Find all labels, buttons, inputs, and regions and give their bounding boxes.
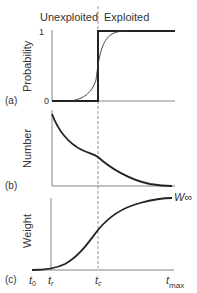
panel-a-label: (a) — [5, 95, 17, 106]
w-infinity-label: W∞ — [174, 191, 192, 203]
panel-c-label: (c) — [5, 274, 17, 285]
tick-tc: tc — [95, 274, 102, 287]
tick-tmax: tmax — [166, 274, 184, 290]
tick-tr: tr — [48, 274, 54, 287]
step-curve — [52, 31, 175, 101]
panel-b-ylabel: Number — [21, 129, 33, 168]
ytick-0: 0 — [44, 96, 49, 106]
panel-a-ylabel: Probability — [21, 40, 33, 92]
number-curve — [52, 114, 172, 186]
panel-b: (b) Number — [5, 110, 175, 191]
weight-curve — [32, 198, 172, 270]
tick-t0: t0 — [29, 274, 36, 287]
header-unexploited: Unexploited — [40, 11, 98, 23]
panel-c-ylabel: Weight — [21, 214, 33, 248]
panel-a: 1 0 (a) Probability — [5, 27, 175, 106]
ytick-1: 1 — [39, 27, 44, 37]
diagram: Unexploited Exploited 1 0 (a) Probabilit… — [0, 0, 197, 293]
header-exploited: Exploited — [104, 11, 149, 23]
panel-c: (c) Weight W∞ t0 tr tc tmax — [5, 191, 192, 290]
panel-b-label: (b) — [5, 180, 17, 191]
